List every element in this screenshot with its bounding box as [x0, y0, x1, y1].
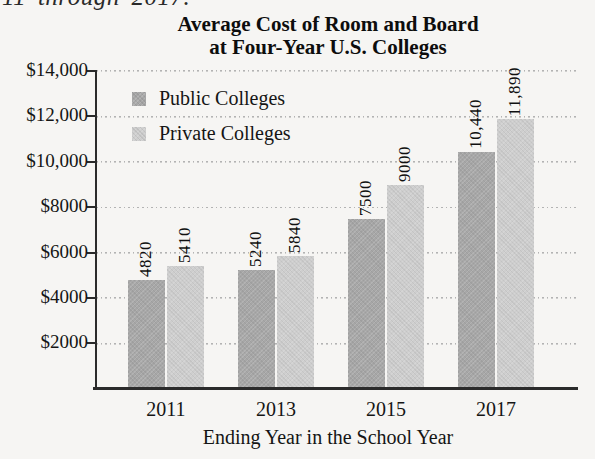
bar-private-2011: [167, 266, 204, 389]
legend-label-public: Public Colleges: [159, 87, 285, 110]
y-tick-label: $12,000: [4, 105, 88, 127]
legend: Public Colleges Private Colleges: [132, 81, 291, 151]
legend-label-private: Private Colleges: [159, 122, 291, 145]
y-tick-label: $14,000: [4, 59, 88, 81]
bar-value-label: 5240: [246, 231, 266, 267]
y-tick-label: $2000: [4, 332, 88, 354]
legend-swatch-private: [132, 127, 146, 141]
bar-value-label: 4820: [136, 241, 156, 277]
bar-private-2013: [277, 256, 314, 389]
bar-public-2017: [458, 152, 495, 389]
x-tick-label: 2011: [126, 398, 206, 421]
y-tick-label: $10,000: [4, 150, 88, 172]
bar-private-2017: [497, 119, 534, 389]
x-tick-label: 2017: [456, 398, 536, 421]
y-axis-line: [95, 70, 97, 389]
legend-item-public: Public Colleges: [132, 81, 291, 116]
bar-private-2015: [387, 185, 424, 389]
x-axis-line: [93, 387, 578, 390]
bar-public-2011: [128, 280, 165, 389]
bar-value-label: 7500: [356, 180, 376, 216]
gridline: [96, 70, 576, 72]
bar-public-2015: [348, 219, 385, 389]
y-tick-label: $4000: [4, 286, 88, 308]
bar-public-2013: [238, 270, 275, 389]
x-tick-label: 2015: [346, 398, 426, 421]
bar-value-label: 10,440: [466, 99, 486, 149]
bar-value-label: 5840: [285, 217, 305, 253]
x-tick-label: 2013: [236, 398, 316, 421]
bar-value-label: 11,890: [505, 67, 525, 116]
y-tick-label: $6000: [4, 241, 88, 263]
legend-swatch-public: [132, 92, 146, 106]
plot-area: $14,000$12,000$10,000$8000$6000$4000$200…: [0, 0, 595, 459]
bar-value-label: 9000: [395, 146, 415, 182]
scanned-page: 11 through 2017. Average Cost of Room an…: [0, 0, 595, 459]
legend-item-private: Private Colleges: [132, 116, 291, 151]
bar-value-label: 5410: [175, 227, 195, 263]
x-axis-title: Ending Year in the School Year: [88, 426, 568, 449]
y-tick-label: $8000: [4, 195, 88, 217]
